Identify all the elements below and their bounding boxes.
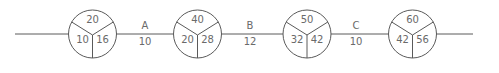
node-earliest-time: 10 (76, 34, 89, 45)
node-event-number: 40 (191, 14, 204, 25)
node-latest-time: 42 (311, 34, 324, 45)
node-earliest-time: 42 (396, 34, 409, 45)
activity-label: A (142, 20, 149, 31)
node-latest-time: 16 (96, 34, 109, 45)
node-earliest-time: 32 (291, 34, 304, 45)
activity-duration: 10 (350, 36, 363, 47)
network-diagram: A10B12C10 201016402028503242604256 (0, 0, 499, 73)
node-event-number: 20 (86, 14, 99, 25)
node-latest-time: 56 (416, 34, 429, 45)
activity-duration: 12 (244, 36, 257, 47)
activity-duration: 10 (139, 36, 152, 47)
node-event-number: 60 (406, 14, 419, 25)
node-latest-time: 28 (201, 34, 214, 45)
event-node: 402028 (174, 10, 222, 58)
activity-label: B (247, 20, 254, 31)
activity-label: C (353, 20, 360, 31)
event-node: 503242 (283, 10, 331, 58)
node-earliest-time: 20 (181, 34, 194, 45)
event-node: 201016 (69, 10, 117, 58)
node-event-number: 50 (301, 14, 314, 25)
event-node: 604256 (389, 10, 437, 58)
